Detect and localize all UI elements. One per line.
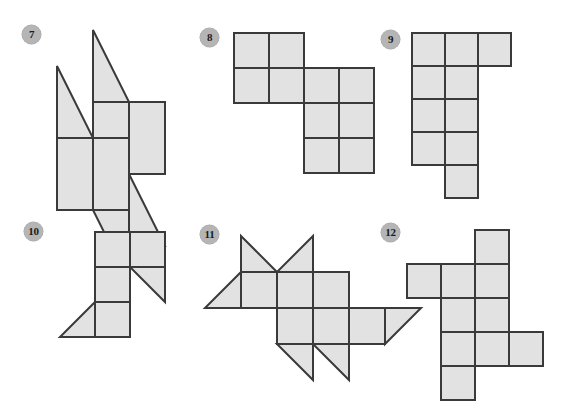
figure-8-square-r0c0 [234, 33, 269, 68]
figure-11-triangle-bottom-left-flap [277, 344, 313, 380]
figure-7-square-top-right [129, 102, 165, 174]
figure-9-square-r4c1 [445, 165, 478, 198]
figure-9-square-r3c1 [445, 132, 478, 165]
figure-8-square-r2c2 [304, 103, 339, 138]
figure-10-square-top-left [95, 232, 130, 267]
figure-11 [203, 234, 423, 382]
figure-11-triangle-bottom-right-flap [313, 344, 349, 380]
figure-10-square-top-right [130, 232, 165, 267]
figure-12-square-r3c3 [509, 332, 543, 366]
figure-8 [232, 31, 376, 175]
figure-9-square-r2c0 [412, 99, 445, 132]
figure-12-square-r2c2 [475, 298, 509, 332]
figure-12-square-r4c1 [441, 366, 475, 400]
figure-10-canvas [58, 230, 167, 339]
figure-11-triangle-top-left-flap [241, 236, 277, 272]
figure-9-square-r1c0 [412, 66, 445, 99]
figure-8-square-r3c2 [304, 138, 339, 173]
figure-11-canvas [203, 234, 423, 382]
figure-9-square-r3c0 [412, 132, 445, 165]
figure-number-badge-7: 7 [22, 25, 41, 44]
figure-7-triangle-upper-left [57, 66, 93, 138]
figure-11-square-r2c2 [277, 308, 313, 344]
figure-9-canvas [410, 31, 513, 200]
worksheet-sheet: 789101112 [0, 0, 567, 416]
figure-7-triangle-top [93, 30, 129, 102]
figure-number-badge-10: 10 [24, 222, 43, 241]
figure-12-canvas [405, 228, 545, 402]
figure-9-square-r2c1 [445, 99, 478, 132]
figure-12-square-r0c2 [475, 230, 509, 264]
figure-8-square-r1c1 [269, 68, 304, 103]
figure-8-square-r0c1 [269, 33, 304, 68]
figure-9-square-r0c2 [478, 33, 511, 66]
figure-10-triangle-bottom-left [60, 302, 95, 337]
figure-10 [58, 230, 167, 339]
figure-7-square-mid-center [93, 138, 129, 210]
figure-11-square-r2c4 [349, 308, 385, 344]
figure-11-square-r2c3 [313, 308, 349, 344]
figure-11-triangle-top-right-flap [277, 236, 313, 272]
figure-8-square-r1c3 [339, 68, 374, 103]
figure-7-square-mid-left [57, 138, 93, 210]
figure-12-square-r1c0 [407, 264, 441, 298]
figure-9 [410, 31, 513, 200]
figure-number-badge-9: 9 [381, 30, 400, 49]
figure-12-square-r2c1 [441, 298, 475, 332]
figure-12-square-r1c1 [441, 264, 475, 298]
figure-8-square-r1c2 [304, 68, 339, 103]
figure-number-badge-12: 12 [381, 223, 400, 242]
figure-9-square-r0c0 [412, 33, 445, 66]
figure-10-square-bottom [95, 302, 130, 337]
figure-8-square-r1c0 [234, 68, 269, 103]
figure-12-square-r3c1 [441, 332, 475, 366]
figure-9-square-r1c1 [445, 66, 478, 99]
figure-11-square-r1c1 [241, 272, 277, 308]
figure-8-square-r3c3 [339, 138, 374, 173]
figure-12-square-r1c2 [475, 264, 509, 298]
figure-12 [405, 228, 545, 402]
figure-10-triangle-right [130, 267, 165, 302]
figure-12-square-r3c2 [475, 332, 509, 366]
figure-11-triangle-left-flap [205, 272, 241, 308]
figure-8-square-r2c3 [339, 103, 374, 138]
figure-number-badge-8: 8 [200, 28, 219, 47]
figure-11-square-r1c3 [313, 272, 349, 308]
figure-9-square-r0c1 [445, 33, 478, 66]
figure-11-square-r1c2 [277, 272, 313, 308]
figure-10-square-middle [95, 267, 130, 302]
figure-8-canvas [232, 31, 376, 175]
